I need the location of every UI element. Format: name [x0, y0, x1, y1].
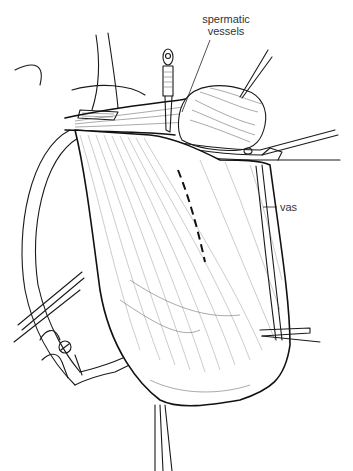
label-spermatic-vessels: spermatic vessels [196, 13, 256, 37]
surgical-illustration [0, 0, 353, 471]
label-vas: vas [280, 201, 297, 213]
label-line1: spermatic [196, 13, 256, 25]
bottom-retractor [155, 405, 172, 471]
testis [178, 50, 272, 151]
label-line2: vessels [196, 25, 256, 37]
clamp-pin [163, 49, 173, 132]
